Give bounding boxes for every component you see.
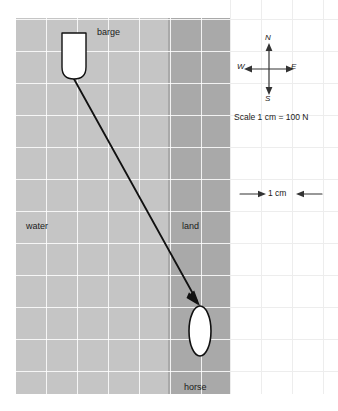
compass-west-label: W — [237, 63, 245, 71]
land-label: land — [182, 222, 199, 231]
force-diagram-figure: barge water land horse N S W E Scale 1 c… — [0, 0, 338, 411]
compass-east-label: E — [291, 63, 296, 71]
water-label: water — [26, 222, 48, 231]
paper-grid-top — [230, 0, 338, 18]
scale-text: Scale 1 cm = 100 N — [234, 113, 308, 122]
ruler-length-label: 1 cm — [268, 189, 286, 198]
horse-label: horse — [184, 383, 207, 392]
compass-north-label: N — [265, 34, 271, 42]
paper-grid — [230, 18, 338, 394]
water-region — [16, 18, 168, 394]
land-region — [168, 18, 230, 394]
compass-south-label: S — [265, 95, 270, 103]
barge-label: barge — [97, 28, 120, 37]
compass-rose-icon — [244, 43, 294, 95]
